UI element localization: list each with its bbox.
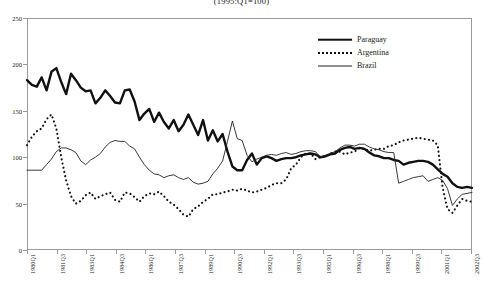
- x-axis-tick-label: 1999Q3: [415, 254, 421, 274]
- x-axis-tick-label: 1983Q1: [89, 254, 95, 274]
- x-axis-tick-label: 1992Q1: [267, 254, 273, 274]
- legend-label-brazil: Brazil: [357, 61, 377, 70]
- legend-line-brazil-icon: [318, 61, 352, 71]
- x-axis-tick-label: 1989Q1: [208, 254, 214, 274]
- y-axis-tick-label: 0: [0, 247, 22, 254]
- x-axis-tick-label: 1990Q3: [237, 254, 243, 274]
- legend-label-paraguay: Paraguay: [357, 35, 387, 44]
- y-axis-tick-label: 250: [0, 15, 22, 22]
- x-axis-tick-label: 1987Q3: [178, 254, 184, 274]
- series-line-paraguay: [27, 68, 472, 188]
- x-axis-tick-label: 2001Q1: [444, 254, 450, 274]
- x-axis-tick-label: 1993Q3: [296, 254, 302, 274]
- x-axis-tick-label: 2002Q3: [474, 254, 480, 274]
- x-axis-tick-label: 1995Q1: [326, 254, 332, 274]
- y-axis: 050100150200250: [0, 0, 27, 291]
- x-axis-tick-label: 1998Q1: [385, 254, 391, 274]
- legend-line-paraguay-icon: [318, 35, 352, 45]
- legend-item-argentina: Argentina: [318, 46, 438, 59]
- legend-item-paraguay: Paraguay: [318, 33, 438, 46]
- y-axis-tick-label: 150: [0, 107, 22, 114]
- legend-item-brazil: Brazil: [318, 59, 438, 72]
- chart-title: (1995:Q1=100): [0, 0, 483, 6]
- y-axis-tick-label: 200: [0, 61, 22, 68]
- x-axis-tick-label: 1984Q3: [119, 254, 125, 274]
- legend-line-argentina-icon: [318, 48, 352, 58]
- series-line-argentina: [27, 115, 472, 217]
- x-axis-tick-label: 1981Q3: [60, 254, 66, 274]
- y-axis-tick-label: 100: [0, 154, 22, 161]
- y-axis-tick-label: 50: [0, 200, 22, 207]
- x-axis-tick-label: 1980Q1: [30, 254, 36, 274]
- legend-label-argentina: Argentina: [357, 48, 389, 57]
- chart-root: (1995:Q1=100) 050100150200250 1980Q11981…: [0, 0, 483, 291]
- x-axis-tick-label: 1986Q1: [148, 254, 154, 274]
- x-axis-tick-label: 1996Q3: [356, 254, 362, 274]
- x-axis-labels: 1980Q11981Q31983Q11984Q31986Q11987Q31989…: [27, 254, 472, 291]
- chart-legend: Paraguay Argentina Brazil: [318, 33, 438, 72]
